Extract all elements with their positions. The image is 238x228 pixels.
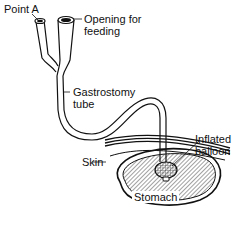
- label-gastrostomy-tube-line1: Gastrostomy: [73, 86, 135, 98]
- label-stomach: Stomach: [132, 191, 179, 203]
- label-inflated-balloon-line1: Inflated: [195, 133, 231, 145]
- label-opening-for-feeding-line2: feeding: [84, 25, 120, 37]
- label-gastrostomy-tube-line2: tube: [73, 98, 94, 110]
- label-point-a: Point A: [4, 3, 39, 15]
- label-skin: Skin: [82, 156, 103, 168]
- label-opening-for-feeding-line1: Opening for: [84, 13, 141, 25]
- label-inflated-balloon-line2: balloon: [195, 145, 230, 157]
- gastrostomy-diagram: Point A Opening for feeding Gastrostomy …: [0, 0, 238, 228]
